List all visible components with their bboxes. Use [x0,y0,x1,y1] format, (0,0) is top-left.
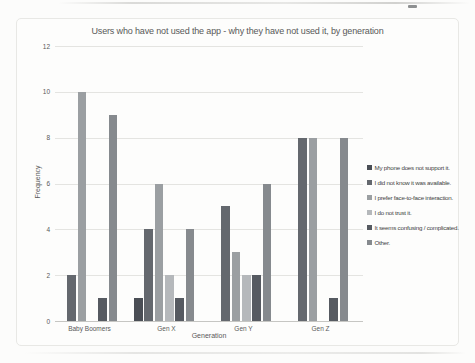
y-tick-label: 12 [35,43,50,50]
gridline [55,92,363,93]
legend-label: I do not trust it. [375,209,412,216]
legend-marker-icon [367,240,372,245]
legend-label: I prefer face-to-face interaction. [375,194,454,201]
bar-baby-boomers-s5 [98,298,107,321]
bar-gen-x-s4 [165,275,174,321]
x-tick-label: Baby Boomers [51,325,128,332]
x-axis-line [55,321,363,322]
y-tick-label: 6 [35,180,50,187]
legend-marker-icon [367,225,372,230]
bar-baby-boomers-s3 [78,92,87,321]
bar-gen-x-s6 [186,229,195,321]
legend-item-my-phone-does-not-support-it: My phone does not support it. [367,160,459,175]
legend: My phone does not support it.I did not k… [367,160,459,250]
legend-label: My phone does not support it. [375,164,450,171]
legend-label: Other. [375,239,391,246]
y-tick-label: 2 [35,272,50,279]
bar-gen-y-s4 [242,275,251,321]
bar-gen-y-s3 [232,252,241,321]
bar-gen-z-s2 [298,138,307,321]
bar-gen-x-s1 [134,298,143,321]
legend-marker-icon [367,210,372,215]
y-tick-label: 4 [35,226,50,233]
scan-artifact-dash [408,5,417,8]
bar-gen-y-s2 [221,206,230,321]
y-tick-label: 10 [35,88,50,95]
bar-gen-y-s6 [263,184,272,322]
legend-item-i-did-not-know-it-was-available: I did not know it was available. [367,175,459,190]
y-tick-label: 0 [35,318,50,325]
bar-gen-x-s3 [155,184,164,322]
scanned-page: Users who have not used the app - why th… [0,0,475,363]
scan-artifact-bottom [24,352,466,354]
legend-item-i-prefer-face-to-face-interaction: I prefer face-to-face interaction. [367,190,459,205]
legend-item-it-seems-confusing-complicated: It seems confusing / complicated. [367,220,459,235]
legend-label: I did not know it was available. [375,179,452,186]
chart-container: Users who have not used the app - why th… [16,18,459,346]
legend-item-i-do-not-trust-it: I do not trust it. [367,205,459,220]
bar-gen-z-s6 [340,138,349,321]
bar-baby-boomers-s6 [109,115,118,321]
legend-label: It seems confusing / complicated. [375,224,459,231]
scan-artifact-top [58,2,470,4]
x-tick-label: Gen X [128,325,205,332]
legend-marker-icon [367,180,372,185]
legend-marker-icon [367,165,372,170]
bar-baby-boomers-s2 [67,275,76,321]
bar-gen-z-s3 [309,138,318,321]
legend-marker-icon [367,195,372,200]
gridline [55,46,363,47]
bar-gen-z-s5 [329,298,338,321]
legend-item-other: Other. [367,235,459,250]
bar-gen-x-s5 [175,298,184,321]
x-tick-label: Gen Z [282,325,359,332]
bar-gen-y-s5 [252,275,261,321]
bar-gen-x-s2 [144,229,153,321]
x-tick-label: Gen Y [205,325,282,332]
y-tick-label: 8 [35,134,50,141]
